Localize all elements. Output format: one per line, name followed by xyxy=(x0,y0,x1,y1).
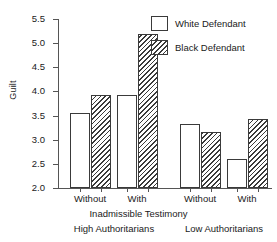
legend-item-white-defendant: White Defendant xyxy=(151,16,246,31)
x-axis-line xyxy=(58,188,272,189)
y-tick-label: 2.0 xyxy=(15,183,45,192)
x-tick-mark xyxy=(80,188,81,192)
x-tick-mark xyxy=(211,188,212,192)
bar-white-defendant-2 xyxy=(180,124,200,188)
bar-black-defendant-0 xyxy=(91,95,111,188)
legend-item-black-defendant: Black Defendant xyxy=(151,40,246,55)
x-axis-title: Inadmissible Testimony xyxy=(0,208,277,219)
bar-white-defendant-3 xyxy=(227,159,247,188)
y-tick-label: 5.5 xyxy=(15,14,45,23)
legend-label-black-defendant: Black Defendant xyxy=(175,42,245,53)
bar-black-defendant-3 xyxy=(248,119,268,188)
y-tick-mark xyxy=(53,188,59,189)
x-group-label: High Authoritarians xyxy=(54,223,174,234)
x-category-label: With xyxy=(217,193,277,204)
y-tick-label: 3.5 xyxy=(15,111,45,120)
x-tick-mark xyxy=(127,188,128,192)
x-group-label: Low Authoritarians xyxy=(164,223,277,234)
y-tick-label: 5.0 xyxy=(15,38,45,47)
y-tick-label: 4.5 xyxy=(15,62,45,71)
x-tick-mark xyxy=(190,188,191,192)
x-category-label: With xyxy=(107,193,167,204)
legend-swatch-open xyxy=(151,16,168,31)
x-tick-mark xyxy=(148,188,149,192)
y-tick-label: 2.5 xyxy=(15,159,45,168)
bar-black-defendant-2 xyxy=(201,132,221,188)
chart-legend: White Defendant Black Defendant xyxy=(151,16,246,64)
bar-chart-figure: Guilt 5.55.04.54.03.53.02.52.0 WithoutWi… xyxy=(0,0,277,242)
x-tick-mark xyxy=(258,188,259,192)
legend-swatch-hatched xyxy=(151,40,168,55)
x-tick-mark xyxy=(237,188,238,192)
y-tick-label: 4.0 xyxy=(15,86,45,95)
x-tick-mark xyxy=(101,188,102,192)
bar-white-defendant-0 xyxy=(70,113,90,188)
y-tick-label: 3.0 xyxy=(15,135,45,144)
legend-label-white-defendant: White Defendant xyxy=(175,18,246,29)
bar-white-defendant-1 xyxy=(117,95,137,188)
